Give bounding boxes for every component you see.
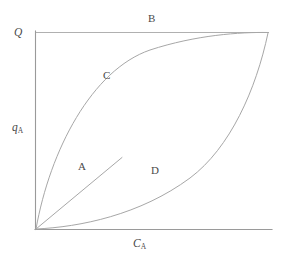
x-axis-label-base: C <box>133 237 141 249</box>
curve-label-c: C <box>103 70 110 81</box>
x-axis-label-subscript: A <box>141 242 146 251</box>
curve-label-d: D <box>151 165 159 176</box>
curve-label-a: A <box>78 161 86 172</box>
isotherm-figure: Q qA CA B C A D <box>0 0 285 264</box>
y-axis-max-label: Q <box>14 27 22 39</box>
curve-label-b: B <box>148 13 155 24</box>
y-axis-label-subscript: A <box>18 126 23 135</box>
x-axis-label: CA <box>133 238 146 250</box>
y-axis-label: qA <box>12 122 23 134</box>
isotherm-plot-area <box>0 0 285 264</box>
